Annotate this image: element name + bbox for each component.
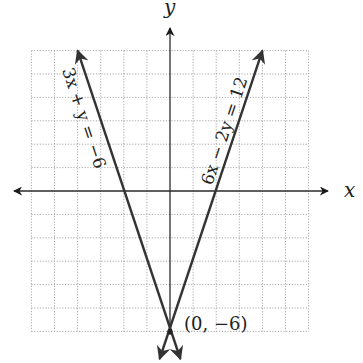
vertex-label: (0, −6)	[184, 313, 247, 334]
x-axis-label: x	[344, 178, 355, 202]
y-axis-label: y	[163, 0, 176, 19]
vertex-point	[167, 329, 172, 334]
equation-label-left: 3x + y = −6	[58, 65, 110, 171]
graph-canvas: y x 3x + y = −6 6x − 2y = 12 (0, −6)	[0, 0, 363, 363]
line-3x-plus-y-eq-neg6	[78, 51, 181, 359]
equation-label-right: 6x − 2y = 12	[197, 74, 252, 187]
